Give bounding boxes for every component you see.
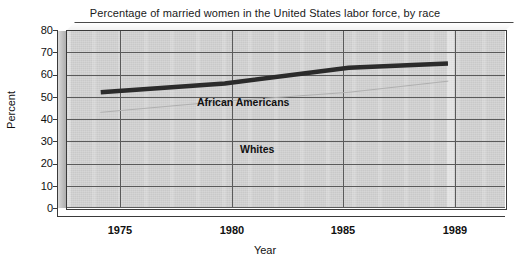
- y-axis-title: Percent: [5, 91, 17, 129]
- y-tick-mark-80: [53, 30, 57, 31]
- y-tick-mark-20: [53, 164, 57, 165]
- plot-area: African Americans Whites: [66, 30, 505, 208]
- y-tick-mark-40: [53, 119, 57, 120]
- y-tick-mark-30: [53, 141, 57, 142]
- y-tick-label-70: 70: [27, 47, 53, 58]
- series-plot-svg: [66, 30, 505, 208]
- y-axis-line: [57, 30, 58, 217]
- chart-figure: Percentage of married women in the Unite…: [0, 0, 530, 263]
- x-axis-line: [57, 216, 505, 217]
- x-tick-label-1980: 1980: [202, 225, 262, 236]
- x-tick-label-1985: 1985: [313, 225, 373, 236]
- y-tick-label-40: 40: [27, 114, 53, 125]
- y-tick-label-80: 80: [27, 25, 53, 36]
- y-tick-label-50: 50: [27, 92, 53, 103]
- y-tick-mark-50: [53, 97, 57, 98]
- y-tick-mark-70: [53, 52, 57, 53]
- y-tick-label-20: 20: [27, 158, 53, 169]
- y-tick-label-30: 30: [27, 136, 53, 147]
- series-label-whites: Whites: [240, 143, 274, 155]
- y-tick-mark-0: [53, 208, 57, 209]
- plot-wrapper: African Americans Whites 80 70 60 50 40 …: [0, 0, 530, 263]
- x-axis-title: Year: [0, 244, 530, 256]
- series-line-african-americans: [101, 63, 448, 92]
- y-tick-mark-60: [53, 75, 57, 76]
- y-tick-label-0: 0: [27, 203, 53, 214]
- y-tick-label-60: 60: [27, 69, 53, 80]
- x-tick-label-1975: 1975: [90, 225, 150, 236]
- y-tick-label-10: 10: [27, 181, 53, 192]
- series-label-african-americans: African Americans: [197, 96, 289, 108]
- y-tick-mark-10: [53, 186, 57, 187]
- x-tick-label-1989: 1989: [425, 225, 485, 236]
